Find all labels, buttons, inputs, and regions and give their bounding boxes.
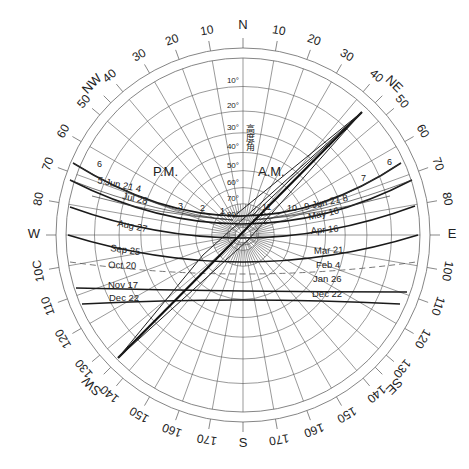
azimuth-tick xyxy=(209,41,211,51)
hour-label: 10 xyxy=(287,203,297,213)
hour-label: 6 xyxy=(387,157,392,167)
azimuth-label: 120 xyxy=(412,327,434,352)
azimuth-tick xyxy=(363,84,369,92)
hour-label: 11 xyxy=(262,202,271,212)
azimuth-gridline-fine xyxy=(212,232,235,234)
azimuth-tick xyxy=(116,84,122,92)
am-label: A.M. xyxy=(258,164,285,179)
azimuth-label: 80 xyxy=(440,191,456,207)
azimuth-label: 120 xyxy=(52,326,74,351)
altitude-label: 40° xyxy=(227,142,239,151)
pm-label: P.M. xyxy=(153,164,178,179)
azimuth-label: 70 xyxy=(429,155,447,173)
hour-label: 7 xyxy=(361,173,366,183)
azimuth-tick xyxy=(405,329,414,334)
azimuth-label: 110 xyxy=(38,294,58,317)
azimuth-tick xyxy=(92,355,100,361)
azimuth-label: 20 xyxy=(305,31,323,49)
azimuth-tick xyxy=(419,168,428,171)
azimuth-label: 150 xyxy=(334,404,359,426)
azimuth-tick xyxy=(337,64,342,73)
hour-label: 3 xyxy=(178,201,183,211)
azimuth-label: 160 xyxy=(160,420,184,440)
azimuth-tick xyxy=(176,50,179,59)
altitude-label: 70° xyxy=(227,194,239,203)
compass-tick xyxy=(375,367,382,374)
azimuth-tick xyxy=(419,299,428,302)
azimuth-label: 70 xyxy=(39,155,57,173)
compass-tick xyxy=(104,367,111,374)
hour-label: 2 xyxy=(200,203,205,213)
azimuth-label: 30 xyxy=(130,45,149,64)
compass-label-w: W xyxy=(28,226,41,241)
azimuth-tick xyxy=(92,108,100,114)
azimuth-label: 80 xyxy=(30,191,46,207)
azimuth-tick xyxy=(386,355,394,361)
azimuth-label: 30 xyxy=(338,46,357,65)
labels: A.M. P.M. 高度角 5 Jun 21 4Jul 28Aug 27Sep … xyxy=(97,123,392,303)
azimuth-tick xyxy=(72,137,81,142)
azimuth-tick xyxy=(427,201,437,203)
hour-label: 1 xyxy=(220,206,225,216)
date-label: 5 Jun 21 4 xyxy=(97,174,143,194)
azimuth-label: 110 xyxy=(428,295,448,318)
azimuth-tick xyxy=(405,137,414,142)
azimuth-tick xyxy=(209,419,211,429)
date-label: Dec 22 xyxy=(109,292,139,303)
azimuth-label: 10C xyxy=(29,259,47,283)
azimuth-tick xyxy=(275,41,277,51)
azimuth-label: 160 xyxy=(302,420,326,440)
azimuth-tick xyxy=(363,378,369,386)
altitude-label: 10° xyxy=(227,76,239,85)
azimuth-gridline xyxy=(129,247,233,371)
hour-label: 6 xyxy=(97,159,102,169)
compass-label-n: N xyxy=(238,17,247,32)
compass-tick xyxy=(104,96,111,103)
date-label: Sep 25 xyxy=(110,242,141,257)
azimuth-tick xyxy=(307,411,310,420)
date-label: Feb 4 xyxy=(316,259,340,270)
altitude-label: 20° xyxy=(227,101,239,110)
date-label: Aug 27 xyxy=(117,217,149,234)
azimuth-label: 170 xyxy=(196,431,218,448)
azimuth-tick xyxy=(49,201,59,203)
altitude-axis-label: 高度角 xyxy=(245,123,255,152)
altitude-label: 60° xyxy=(227,178,239,187)
azimuth-tick xyxy=(116,378,122,386)
date-label: Jan 26 xyxy=(313,273,342,284)
azimuth-label: 20 xyxy=(163,31,181,49)
azimuth-gridline xyxy=(253,247,357,371)
polar-grid xyxy=(66,58,420,412)
azimuth-tick xyxy=(176,411,179,420)
azimuth-tick xyxy=(72,329,81,334)
azimuth-label: 10 xyxy=(271,22,287,38)
azimuth-tick xyxy=(58,168,67,171)
compass-label-e: E xyxy=(448,226,457,241)
azimuth-tick xyxy=(307,50,310,59)
azimuth-tick xyxy=(337,397,342,406)
azimuth-label: 60 xyxy=(54,122,73,141)
altitude-label: 30° xyxy=(227,123,239,132)
altitude-label: 50° xyxy=(227,161,239,170)
azimuth-tick xyxy=(275,419,277,429)
azimuth-tick xyxy=(58,299,67,302)
azimuth-label: 150 xyxy=(127,404,152,426)
azimuth-tick xyxy=(427,267,437,269)
azimuth-tick xyxy=(145,397,150,406)
date-label: Dec 22 xyxy=(312,288,342,299)
compass-label-s: S xyxy=(239,435,248,450)
azimuth-tick xyxy=(386,108,394,114)
date-label: Oct 20 xyxy=(108,259,136,271)
azimuth-label: 100 xyxy=(439,260,456,282)
azimuth-tick xyxy=(145,64,150,73)
azimuth-label: 60 xyxy=(414,122,433,141)
azimuth-tick xyxy=(49,267,59,269)
compass-tick xyxy=(375,96,382,103)
date-label: Nov 17 xyxy=(108,279,138,290)
azimuth-label: 10 xyxy=(199,22,215,38)
date-label: Mar 21 xyxy=(314,244,344,256)
sun-path-diagram: 1010202030304040505060607070808010010C11… xyxy=(0,0,469,469)
date-label: Apr 16 xyxy=(310,223,339,236)
azimuth-label: 170 xyxy=(268,431,290,448)
